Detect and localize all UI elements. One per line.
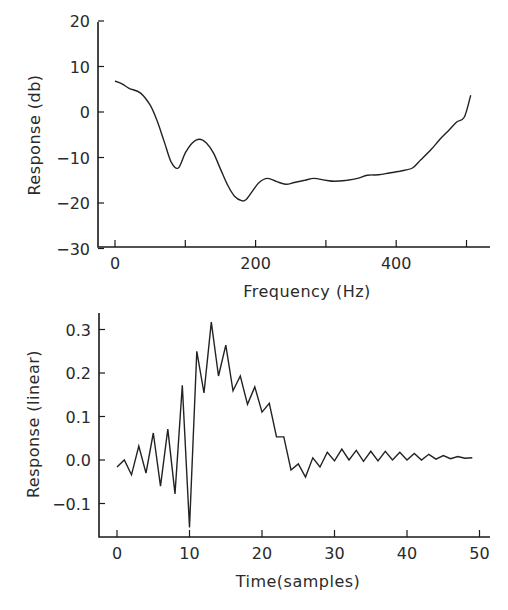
bottom-x-ticks: 01020304050	[112, 530, 490, 563]
bottom-y-ticks: 0.30.20.10.0−0.1	[52, 321, 105, 514]
top-y-tick-label: 20	[70, 12, 90, 31]
bottom-x-tick-label: 20	[252, 544, 272, 563]
bottom-x-tick-label: 40	[397, 544, 417, 563]
bottom-axes-frame	[99, 313, 490, 537]
bottom-y-tick-label: 0.2	[66, 364, 91, 383]
top-x-tick-label: 400	[381, 254, 412, 273]
top-y-tick-label: 0	[80, 103, 90, 122]
bottom-x-tick-label: 10	[179, 544, 199, 563]
bottom-y-tick-label: 0.3	[66, 321, 91, 340]
impulse-response-panel: 0.30.20.10.0−0.1 01020304050 Time(sample…	[24, 313, 490, 591]
bottom-x-tick-label: 0	[112, 544, 122, 563]
figure: 20100−10−20−30 0200400 Frequency (Hz) Re…	[0, 0, 508, 610]
bottom-x-tick-label: 50	[469, 544, 489, 563]
top-x-axis-label: Frequency (Hz)	[243, 282, 371, 301]
top-y-ticks: 20100−10−20−30	[56, 12, 104, 259]
bottom-x-axis-label: Time(samples)	[235, 572, 361, 591]
bottom-y-tick-label: −0.1	[52, 495, 91, 514]
top-x-ticks: 0200400	[110, 240, 467, 273]
frequency-response-curve	[115, 81, 471, 201]
top-x-tick-label: 200	[240, 254, 271, 273]
top-y-axis-label: Response (db)	[25, 74, 44, 195]
bottom-x-tick-label: 30	[324, 544, 344, 563]
impulse-response-curve	[117, 322, 472, 527]
top-y-tick-label: −20	[56, 194, 90, 213]
frequency-response-panel: 20100−10−20−30 0200400 Frequency (Hz) Re…	[25, 12, 490, 301]
top-y-tick-label: −10	[56, 149, 90, 168]
bottom-y-tick-label: 0.0	[66, 451, 91, 470]
top-y-tick-label: −30	[56, 240, 90, 259]
top-y-tick-label: 10	[70, 58, 90, 77]
top-x-tick-label: 0	[110, 254, 120, 273]
bottom-y-tick-label: 0.1	[66, 408, 91, 427]
bottom-y-axis-label: Response (linear)	[24, 350, 43, 498]
top-axes-frame	[98, 22, 490, 247]
